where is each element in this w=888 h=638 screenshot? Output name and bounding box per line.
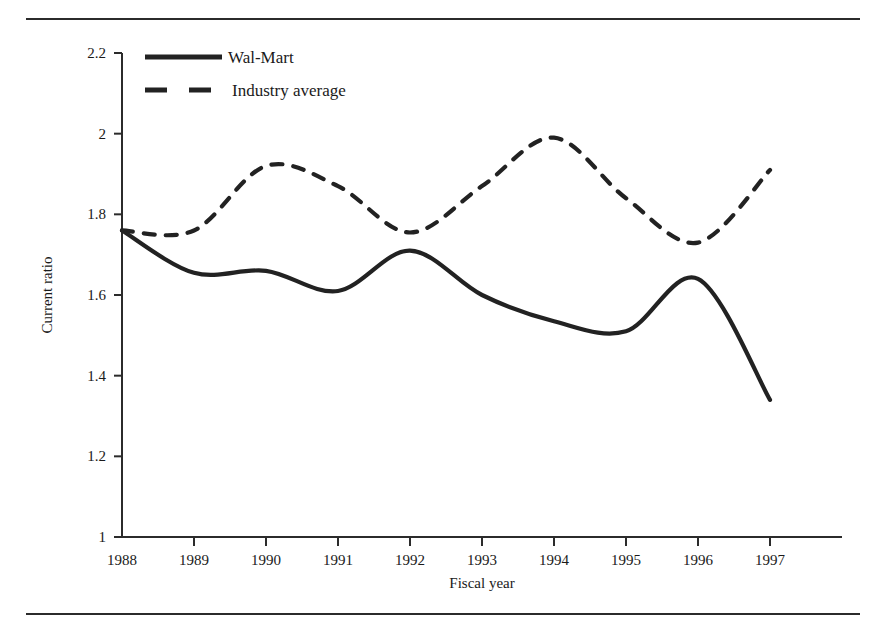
x-tick-labels: 1988198919901991199219931994199519961997 [107, 552, 786, 568]
y-tick-label: 1.8 [87, 206, 106, 222]
line-chart: 11.21.41.61.822.2 1988198919901991199219… [0, 0, 888, 638]
x-tick-label: 1989 [179, 552, 209, 568]
x-tick-label: 1988 [107, 552, 137, 568]
chart-svg: 11.21.41.61.822.2 1988198919901991199219… [0, 0, 888, 638]
y-axis-title: Current ratio [39, 256, 55, 333]
x-tick-marks [194, 537, 770, 546]
legend-label-industry-average: Industry average [232, 81, 346, 100]
x-axis-title: Fiscal year [449, 575, 514, 591]
y-tick-labels: 11.21.41.61.822.2 [87, 45, 106, 545]
x-tick-label: 1993 [467, 552, 497, 568]
x-tick-label: 1997 [755, 552, 786, 568]
series-line-industry-average [122, 138, 770, 243]
x-tick-label: 1990 [251, 552, 281, 568]
series-line-wal-mart [122, 230, 770, 399]
legend-label-wal-mart: Wal-Mart [228, 48, 294, 67]
x-tick-label: 1991 [323, 552, 353, 568]
chart-legend: Wal-Mart Industry average [145, 48, 346, 100]
x-tick-label: 1992 [395, 552, 425, 568]
y-tick-label: 1.4 [87, 368, 106, 384]
y-tick-label: 1.6 [87, 287, 106, 303]
y-tick-label: 1 [99, 529, 107, 545]
x-tick-label: 1995 [611, 552, 641, 568]
y-tick-label: 1.2 [87, 448, 106, 464]
y-tick-label: 2.2 [87, 45, 106, 61]
x-tick-label: 1996 [683, 552, 714, 568]
x-tick-label: 1994 [539, 552, 570, 568]
figure-frame: 11.21.41.61.822.2 1988198919901991199219… [0, 0, 888, 638]
y-tick-label: 2 [99, 126, 107, 142]
y-tick-marks [114, 53, 122, 537]
